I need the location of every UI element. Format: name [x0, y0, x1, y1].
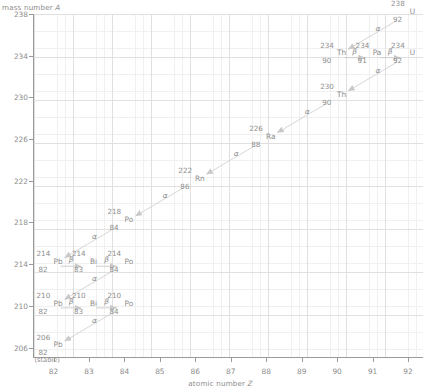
- x-axis-title-symbol: Z: [248, 379, 253, 388]
- decay-arrow-alpha: [65, 271, 113, 300]
- x-tick-label: 90: [322, 367, 352, 376]
- y-tick-label: 230: [4, 93, 28, 102]
- x-tick-label: 85: [145, 367, 175, 376]
- x-tick-label: 87: [216, 367, 246, 376]
- decay-chain-figure: mass number A atomic number Z 2382342302…: [0, 0, 441, 392]
- y-tick-label: 222: [4, 176, 28, 185]
- x-tick-label: 83: [74, 367, 104, 376]
- x-tick-label: 82: [39, 367, 69, 376]
- x-tick-label: 88: [251, 367, 281, 376]
- mass-number: 238: [385, 0, 431, 8]
- y-axis-title-symbol: A: [55, 3, 60, 12]
- x-axis-title-text: atomic number: [188, 379, 247, 388]
- y-tick-label: 234: [4, 51, 28, 60]
- decay-arrow-alpha: [348, 62, 396, 91]
- decay-arrow-alpha: [348, 21, 396, 50]
- y-tick-label: 218: [4, 218, 28, 227]
- decay-arrow-alpha: [277, 104, 325, 133]
- plot-area: 238234230226222218214210206 828384858687…: [33, 14, 423, 358]
- y-tick-label: 214: [4, 260, 28, 269]
- x-tick-label: 91: [358, 367, 388, 376]
- decay-arrow-alpha: [65, 229, 113, 258]
- y-tick-label: 206: [4, 343, 28, 352]
- x-axis-title: atomic number Z: [0, 379, 441, 388]
- x-tick-label: 84: [109, 367, 139, 376]
- decay-arrow-alpha: [136, 187, 184, 216]
- y-tick-label: 210: [4, 301, 28, 310]
- x-tick-label: 92: [393, 367, 423, 376]
- y-tick-label: 238: [4, 10, 28, 19]
- y-tick-label: 226: [4, 135, 28, 144]
- x-tick-label: 86: [180, 367, 210, 376]
- decay-arrows: [34, 14, 424, 358]
- decay-arrow-alpha: [207, 146, 255, 175]
- x-tick-label: 89: [287, 367, 317, 376]
- decay-arrow-alpha: [65, 312, 113, 341]
